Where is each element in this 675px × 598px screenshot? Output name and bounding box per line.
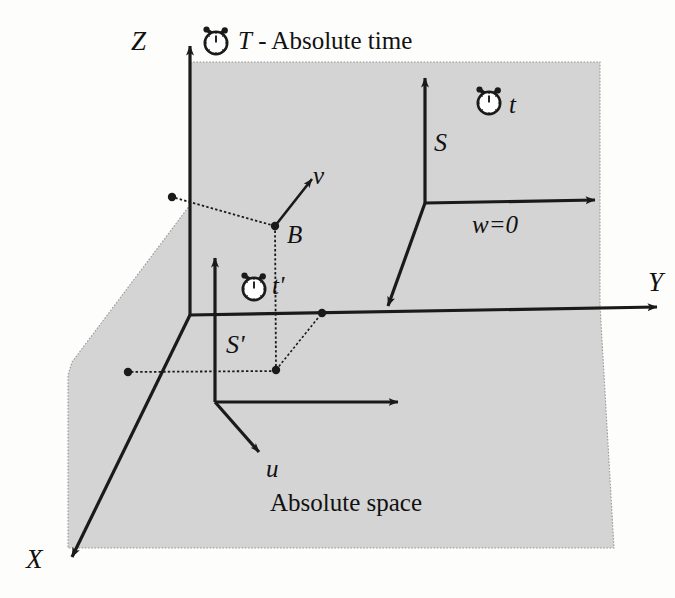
point-b-marker	[271, 222, 279, 230]
velocity-label-u: u	[266, 456, 279, 481]
clock-label-t: t	[509, 92, 516, 117]
point-b-z-projection	[168, 193, 176, 201]
point-b-plane-projection	[272, 366, 280, 374]
point-b-x-projection	[124, 368, 132, 376]
point-b-y-projection	[318, 309, 326, 317]
clock-label-t-prime: t'	[272, 273, 284, 298]
figure-root: Z Y X T - Absolute time t S w=0 v B t' S…	[0, 0, 675, 598]
title-symbol-text: T	[238, 27, 252, 54]
title-symbol: T - Absolute time	[238, 28, 412, 53]
axis-label-y: Y	[648, 269, 663, 296]
stopwatch-icon-t-prime	[241, 272, 266, 300]
stopwatch-icon-t	[476, 86, 501, 114]
condition-label-w: w=0	[472, 212, 518, 237]
point-label-b: B	[287, 222, 302, 247]
velocity-label-v: v	[313, 163, 324, 188]
frame-label-s: S	[434, 130, 447, 156]
frame-label-s-prime: S'	[226, 332, 245, 358]
figure-caption: Absolute space	[270, 490, 422, 515]
stopwatch-icon-T	[203, 26, 228, 54]
axis-label-x: X	[26, 546, 43, 573]
axis-label-z: Z	[131, 28, 146, 55]
absolute-space-plane	[68, 62, 614, 548]
title-rest-text: - Absolute time	[258, 27, 412, 54]
